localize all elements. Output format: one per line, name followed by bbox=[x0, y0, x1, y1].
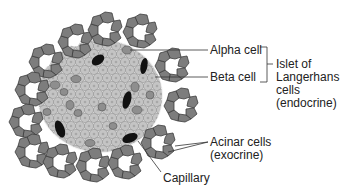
label-islet-line-4: (endocrine) bbox=[276, 97, 339, 110]
acinar-leader-2 bbox=[168, 142, 208, 152]
label-islet-group: Islet of Langerhans cells (endocrine) bbox=[276, 58, 339, 110]
label-acinar-line-2: (exocrine) bbox=[210, 149, 271, 162]
label-capillary: Capillary bbox=[163, 172, 210, 185]
label-beta-cell: Beta cell bbox=[210, 71, 256, 84]
pancreas-islet-diagram: Alpha cell Beta cell Islet of Langerhans… bbox=[0, 0, 352, 193]
label-acinar-cells: Acinar cells (exocrine) bbox=[210, 136, 271, 162]
acinar-leader-1 bbox=[175, 142, 208, 146]
label-alpha-cell: Alpha cell bbox=[210, 44, 262, 57]
